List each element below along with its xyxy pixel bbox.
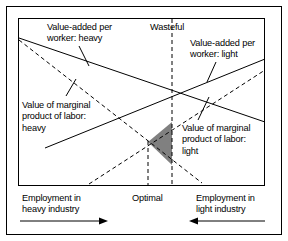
axis-arrow-light — [189, 218, 265, 225]
label-wasteful: Wasteful — [150, 22, 184, 33]
economics-diagram-figure: Value-added per worker: heavy Wasteful V… — [0, 0, 288, 241]
leader-vmp-light — [198, 97, 209, 120]
label-vmp-light: Value of marginal product of labor: ligh… — [182, 123, 250, 157]
caption-employment-light: Employment in light industry — [196, 193, 255, 216]
axis-arrow-heavy — [20, 218, 108, 225]
caption-optimal: Optimal — [132, 193, 163, 204]
label-value-added-heavy: Value-added per worker: heavy — [47, 22, 112, 45]
label-value-added-light: Value-added per worker: light — [190, 38, 255, 61]
leader-vmp-heavy — [66, 79, 76, 96]
label-vmp-heavy: Value of marginal product of labor: heav… — [22, 100, 90, 134]
caption-employment-heavy: Employment in heavy industry — [22, 193, 81, 216]
leader-value-added-heavy — [79, 46, 89, 66]
